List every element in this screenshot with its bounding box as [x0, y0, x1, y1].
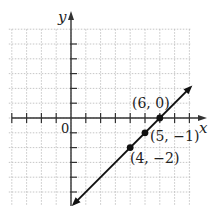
coordinate-plane: y x 0 (6, 0) (5, −1) (4, −2) [0, 0, 210, 206]
origin-label: 0 [61, 121, 69, 136]
y-axis-arrow-icon [68, 11, 74, 20]
point-label-5-neg1: (5, −1) [150, 128, 199, 144]
x-axis-label: x [199, 119, 208, 137]
point-label-4-neg2: (4, −2) [130, 150, 179, 166]
point-marker [156, 115, 163, 122]
y-axis-label: y [57, 8, 67, 26]
point-marker [142, 129, 149, 136]
point-label-6-0: (6, 0) [132, 95, 170, 111]
